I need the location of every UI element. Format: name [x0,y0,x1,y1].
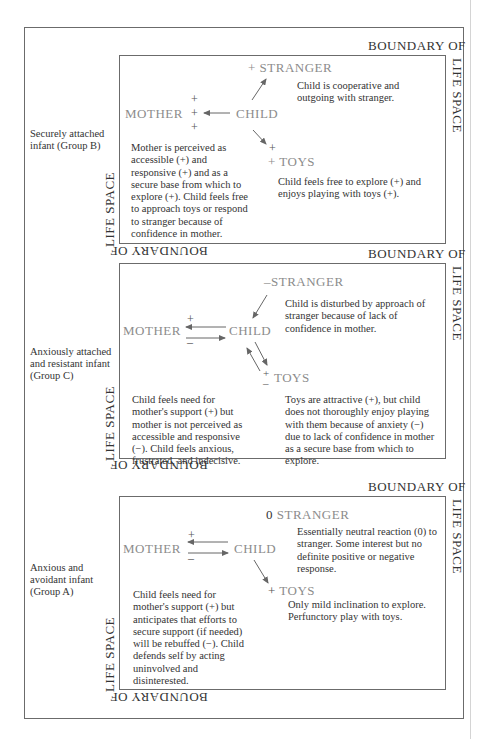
stranger-label: STRANGER [277,507,350,522]
mother-node: MOTHER [125,106,183,122]
stranger-label: STRANGER [260,60,333,75]
group-b-label: Securely attached infant (Group B) [30,128,116,152]
toys-label: TOYS [279,154,315,169]
boundary-label-top: BOUNDARY OF [368,246,466,262]
boundary-label-bottom: BOUNDARY OF [110,243,208,259]
mother-sign-3: + [191,121,198,133]
stranger-sign: 0 [266,507,273,522]
toys-description: Toys are attractive (+), but child does … [285,394,437,468]
toys-node: + TOYS [268,154,315,170]
toys-label: TOYS [279,583,315,598]
toys-description: Only mild inclination to explore. Perfun… [288,599,438,624]
group-c-label: Anxiously attached and resistant infant … [30,346,116,382]
stranger-description: Child is disturbed by approach of strang… [285,298,435,335]
stranger-sign: – [264,274,271,289]
stranger-sign: + [248,60,256,75]
boundary-label-top: BOUNDARY OF [368,479,466,495]
stranger-node: 0 STRANGER [266,507,349,523]
group-a-label: Anxious and avoidant infant (Group A) [30,562,116,598]
boundary-label-top: BOUNDARY OF [368,38,466,54]
boundary-label-bottom: BOUNDARY OF [110,689,208,705]
mother-description: Child feels need for mother's support (+… [133,589,251,687]
life-space-label-right: LIFE SPACE [449,266,465,341]
mother-description: Mother is perceived as accessible (+) an… [131,142,251,240]
child-node: CHILD [229,323,271,339]
mother-sign-upper: + [187,313,194,325]
child-node: CHILD [236,106,278,122]
mother-node: MOTHER [123,541,181,557]
stranger-node: + STRANGER [248,60,332,76]
stranger-node: –STRANGER [264,274,344,290]
mother-description: Child feels need for mother's support (+… [132,394,250,468]
toys-description: Child feels free to explore (+) and enjo… [278,176,438,201]
toys-sign: + [268,583,276,598]
life-space-label-left: LIFE SPACE [102,386,118,461]
life-space-label-right: LIFE SPACE [449,58,465,133]
life-space-label-right: LIFE SPACE [449,499,465,574]
toys-sign-upper: + [269,142,276,154]
mother-node: MOTHER [123,323,181,339]
life-space-label-left: LIFE SPACE [102,617,118,692]
toys-sign: + [268,154,276,169]
stranger-description: Essentially neutral reaction (0) to stra… [297,526,442,575]
child-node: CHILD [234,541,276,557]
toys-node: TOYS [274,370,310,386]
stranger-label: STRANGER [271,274,344,289]
toys-sign-lower: – [263,377,269,389]
mother-sign-2: + [191,107,198,119]
mother-sign-1: + [191,93,198,105]
mother-sign-lower: – [187,336,193,348]
page-edge-line [470,0,471,739]
stranger-description: Child is cooperative and outgoing with s… [297,80,437,105]
mother-sign-upper: + [188,529,195,541]
mother-sign-lower: – [188,552,194,564]
life-space-label-left: LIFE SPACE [102,172,118,247]
toys-node: + TOYS [268,583,315,599]
